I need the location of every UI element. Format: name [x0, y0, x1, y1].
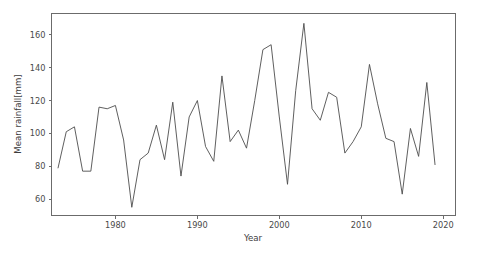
- y-tick-label: 60: [35, 194, 45, 204]
- chart-figure: 6080100120140160 19801990200020102020 Ye…: [0, 0, 479, 256]
- y-tick-label: 100: [30, 128, 46, 138]
- x-tick-label: 1980: [105, 220, 126, 230]
- x-axis-label: Year: [243, 233, 263, 243]
- line-chart: 6080100120140160 19801990200020102020 Ye…: [0, 0, 479, 256]
- x-tick-label: 2020: [433, 220, 454, 230]
- x-tick-label: 2000: [269, 220, 290, 230]
- x-tick-label: 2010: [351, 220, 372, 230]
- y-axis-label: Mean rainfall[mm]: [13, 74, 23, 153]
- y-tick-label: 140: [30, 63, 46, 73]
- y-tick-label: 160: [30, 30, 46, 40]
- y-tick-label: 120: [30, 96, 46, 106]
- x-tick-label: 1990: [187, 220, 208, 230]
- y-tick-label: 80: [35, 161, 45, 171]
